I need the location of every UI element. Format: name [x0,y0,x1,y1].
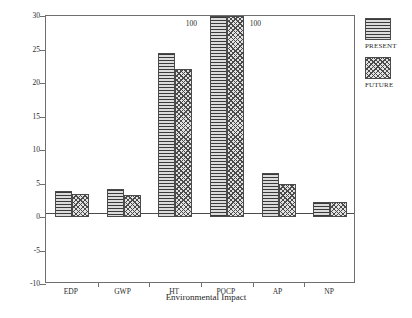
y-tick [40,184,46,185]
bar-ht-future [175,69,192,217]
y-tick-label: 15 [20,112,40,121]
bar-edp-future [72,194,89,217]
y-tick-label: 25 [20,45,40,54]
bar-pocp-future [227,16,244,217]
legend-swatch-present [365,18,391,40]
bar-gwp-present [107,189,124,217]
bar-np-future [330,202,347,217]
legend-item-future: FUTURE [365,57,409,89]
y-tick [40,284,46,285]
y-tick-label: 5 [20,179,40,188]
y-tick-label: 30 [20,11,40,20]
y-tick-label: 10 [20,145,40,154]
y-tick [40,251,46,252]
legend-swatch-future [365,57,391,79]
y-tick [40,16,46,17]
y-tick-label: 20 [20,78,40,87]
zero-baseline [46,213,354,214]
value-label-100: 100 [250,19,261,28]
legend-label-present: PRESENT [365,42,409,50]
bar-chart-figure: Standardized Impact 100100 -10-505101520… [0,0,412,318]
y-tick [40,117,46,118]
legend-item-present: PRESENT [365,18,409,50]
bar-ht-present [158,53,175,217]
legend: PRESENT FUTURE [365,18,409,96]
y-tick [40,50,46,51]
bar-pocp-present [210,16,227,217]
bar-edp-present [55,191,72,217]
y-tick-label: -10 [20,279,40,288]
y-tick [40,217,46,218]
y-tick [40,83,46,84]
bar-np-present [313,202,330,217]
y-tick-label: -5 [20,246,40,255]
plot-area: 100100 [45,15,355,283]
bar-ap-present [262,173,279,217]
legend-label-future: FUTURE [365,81,409,89]
value-label-100: 100 [186,19,197,28]
bar-gwp-future [124,195,141,217]
y-tick-label: 0 [20,212,40,221]
bar-ap-future [279,184,296,218]
x-axis-title: Environmental Impact [0,292,412,302]
y-tick [40,150,46,151]
